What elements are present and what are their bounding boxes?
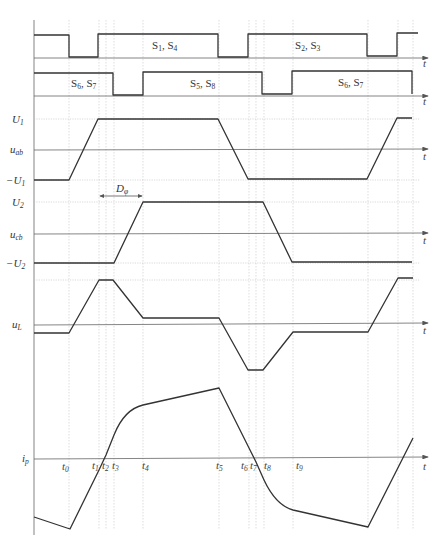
- svg-text:ucb: ucb: [10, 228, 23, 242]
- svg-text:t: t: [423, 150, 427, 162]
- svg-text:t6: t6: [241, 459, 248, 473]
- svg-text:t: t: [423, 460, 427, 472]
- gate-row-1: t S1, S4 S2, S3: [34, 33, 428, 69]
- svg-text:t1: t1: [92, 459, 99, 473]
- svg-text:t5: t5: [216, 459, 223, 473]
- svg-text:t9: t9: [296, 459, 303, 473]
- label-s5-s8: S5, S8: [190, 77, 216, 91]
- label-s6-s7-b: S6, S7: [338, 76, 364, 90]
- svg-text:−U1: −U1: [6, 174, 25, 188]
- waveform-uL: t uL: [12, 278, 428, 370]
- svg-text:U1: U1: [12, 113, 24, 127]
- svg-text:Dφ: Dφ: [115, 182, 128, 196]
- label-s1-s4: S1, S4: [152, 39, 178, 53]
- svg-text:t8: t8: [264, 459, 271, 473]
- time-labels: t0 t1 t2 t3 t4 t5 t6 t7 t8 t9: [62, 459, 303, 474]
- waveform-ip: t ip: [22, 388, 428, 529]
- svg-text:uab: uab: [10, 143, 23, 157]
- gate-row-2: t S6, S7 S5, S8 S6, S7: [34, 71, 428, 107]
- phase-shift-annotation: Dφ: [100, 182, 142, 196]
- waveform-ucb: t U2 ucb −U2: [6, 196, 428, 271]
- label-s6-s7-a: S6, S7: [71, 77, 97, 91]
- svg-text:t: t: [423, 57, 427, 69]
- label-s2-s3: S2, S3: [295, 39, 321, 53]
- svg-text:t: t: [423, 234, 427, 246]
- svg-text:t4: t4: [142, 459, 149, 473]
- svg-text:ip: ip: [22, 452, 29, 466]
- vertical-gridlines: [69, 20, 413, 530]
- timing-diagram: t S1, S4 S2, S3 t S6, S7 S5, S8 S6, S7 t…: [0, 0, 445, 546]
- svg-text:−U2: −U2: [6, 257, 25, 271]
- svg-text:t0: t0: [62, 460, 69, 474]
- svg-text:t: t: [423, 95, 427, 107]
- svg-text:t2: t2: [102, 459, 109, 473]
- svg-text:t3: t3: [112, 459, 119, 473]
- svg-text:uL: uL: [12, 318, 22, 332]
- svg-text:U2: U2: [12, 196, 24, 210]
- waveform-uab: t U1 uab −U1: [6, 113, 428, 188]
- svg-text:t: t: [423, 324, 427, 336]
